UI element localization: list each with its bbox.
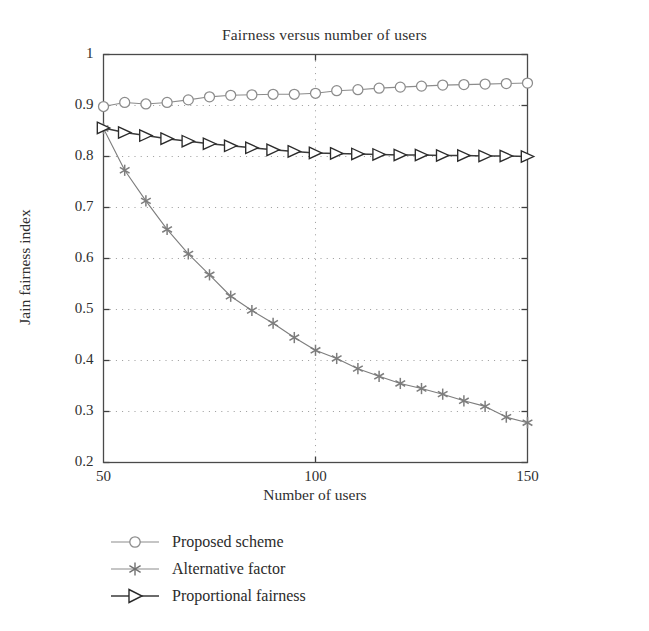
x-tick-label: 100: [286, 468, 346, 485]
series-alternative-factor: [99, 123, 533, 428]
y-tick-label: 0.7: [48, 198, 94, 215]
legend-item-proportional-fairness: Proportional fairness: [108, 582, 508, 609]
legend-marker-right-triangle-icon: [108, 585, 162, 607]
legend-item-alternative-factor: Alternative factor: [108, 555, 508, 582]
chart-legend: Proposed scheme Alternative factor Propo…: [108, 528, 508, 609]
x-tick-label: 50: [74, 468, 134, 485]
legend-label: Proposed scheme: [162, 533, 284, 551]
y-tick-label: 0.9: [48, 96, 94, 113]
chart-figure: Fairness versus number of users Jain fai…: [0, 0, 649, 631]
legend-label: Proportional fairness: [162, 587, 306, 605]
legend-marker-circle-icon: [108, 531, 162, 553]
x-axis-label: Number of users: [103, 486, 527, 504]
x-tick-label: 150: [498, 468, 558, 485]
series-proposed-scheme: [99, 78, 533, 111]
y-tick-label: 0.4: [48, 351, 94, 368]
legend-item-proposed-scheme: Proposed scheme: [108, 528, 508, 555]
y-tick-label: 0.5: [48, 300, 94, 317]
legend-marker-asterisk-icon: [108, 558, 162, 580]
y-tick-label: 0.8: [48, 147, 94, 164]
y-tick-label: 1: [48, 45, 94, 62]
legend-label: Alternative factor: [162, 560, 285, 578]
y-tick-label: 0.3: [48, 402, 94, 419]
y-tick-label: 0.6: [48, 249, 94, 266]
